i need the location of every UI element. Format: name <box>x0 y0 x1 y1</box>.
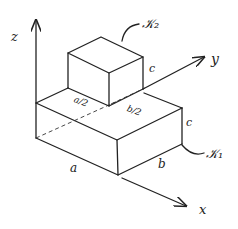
lower-top-back-left-edge <box>36 88 68 103</box>
upper-top-face <box>68 37 143 73</box>
cuboid-diagram: z y x 𝒦₂ 𝒦₁ a b c c a/2 b/2 <box>0 0 238 229</box>
x-axis <box>122 178 186 206</box>
lower-top-front-edges <box>36 103 182 140</box>
upper-body-leader <box>122 24 139 41</box>
y-axis-label: y <box>210 51 220 67</box>
lower-front-edge <box>117 140 118 175</box>
upper-body-label: 𝒦₂ <box>142 16 159 31</box>
dimension-b-half: b/2 <box>126 103 143 117</box>
lower-body-label: 𝒦₁ <box>206 146 223 161</box>
dimension-a: a <box>70 161 77 175</box>
lower-top-back-right-edge <box>144 93 182 108</box>
dimension-b: b <box>158 157 166 171</box>
dimension-c-lower: c <box>186 116 192 129</box>
lower-body-leader <box>182 145 204 154</box>
dimension-c-upper: c <box>149 62 155 75</box>
z-axis-label: z <box>10 29 18 44</box>
x-axis-label: x <box>199 202 207 217</box>
